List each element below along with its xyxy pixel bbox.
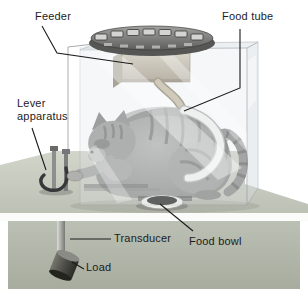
- feeder-label: Feeder: [35, 10, 71, 23]
- food-tube-label: Food tube: [222, 10, 273, 23]
- feeder-disk: [89, 26, 215, 56]
- figure-operant-chamber: Feeder Food tube Lever apparatus Transdu…: [0, 0, 308, 298]
- lever-apparatus-label: Lever apparatus: [17, 97, 81, 123]
- transducer-label: Transducer: [114, 232, 171, 245]
- load-label: Load: [86, 261, 111, 274]
- food-bowl-label: Food bowl: [189, 235, 242, 248]
- chamber-glass: [80, 42, 258, 205]
- cat-paw-on-lever: [67, 171, 83, 181]
- table-edge-band: [0, 213, 308, 221]
- diagram-canvas: [0, 0, 308, 298]
